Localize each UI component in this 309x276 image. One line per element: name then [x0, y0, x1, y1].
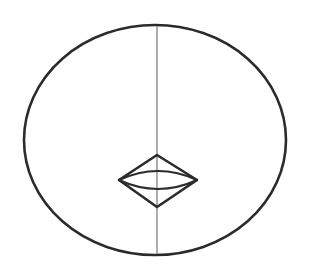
center-rhombus: [119, 155, 197, 207]
outer-ellipse: [24, 25, 286, 255]
figure-canvas: [0, 0, 309, 276]
line-drawing-svg: [0, 0, 309, 276]
